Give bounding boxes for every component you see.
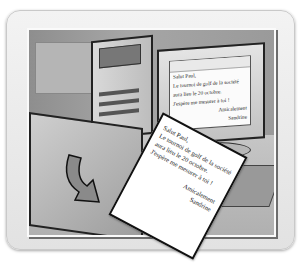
monitor-screen: Salut Paul, Le tournoi de golf de la soc… (169, 55, 251, 131)
tower-display (99, 44, 141, 68)
drive-slot (99, 98, 139, 106)
drive-slot (99, 108, 139, 116)
wall-panel (35, 42, 97, 94)
print-arrow-icon (59, 150, 109, 210)
drive-slot (99, 88, 139, 96)
